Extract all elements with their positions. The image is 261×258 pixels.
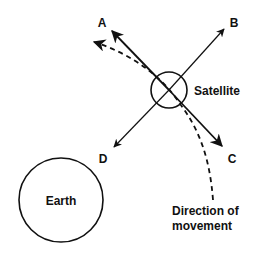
direction-caption-line1: Direction of <box>172 204 240 218</box>
arrow-b <box>169 29 224 90</box>
satellite-orbit-diagram: Earth Satellite A B C D Direction of mov… <box>0 0 261 258</box>
arrow-d <box>114 90 169 147</box>
direction-caption-line2: movement <box>172 219 232 233</box>
label-a: A <box>98 16 107 30</box>
label-c: C <box>228 152 237 166</box>
label-b: B <box>230 16 239 30</box>
earth-label: Earth <box>46 194 77 208</box>
satellite-label: Satellite <box>194 84 240 98</box>
orbit-path-dashed <box>94 42 213 200</box>
arrow-a <box>112 31 169 90</box>
label-d: D <box>99 152 108 166</box>
